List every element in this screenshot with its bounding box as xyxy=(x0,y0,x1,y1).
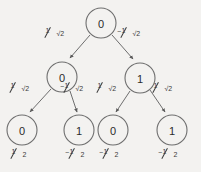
edge-label-right-rightright-denominator: √2 xyxy=(164,85,172,92)
edge-left-to-leftleft xyxy=(30,89,51,112)
edge-label-left-leftleft-denominator: √2 xyxy=(21,85,29,92)
node-leaf-3-label: 0 xyxy=(110,125,116,137)
edge-label-left-leftleft: 1 √2 xyxy=(10,82,29,92)
node-root[interactable]: 0 xyxy=(86,8,116,38)
fraction-bar-icon xyxy=(108,148,114,158)
edge-label-right-rightleft-denominator: √2 xyxy=(108,85,116,92)
leaf-value-2-denominator: 2 xyxy=(80,151,84,158)
leaf-value-3-denominator: 2 xyxy=(114,151,118,158)
leaf-value-4-denominator: 2 xyxy=(173,151,177,158)
node-leaf-1[interactable]: 0 xyxy=(7,115,37,145)
node-leaf-4-label: 1 xyxy=(169,125,175,137)
edge-label-root-right-sign: − xyxy=(117,27,121,35)
edge-label-right-rightright: 1 √2 xyxy=(153,82,172,92)
edge-label-root-right: − 1 √2 xyxy=(117,27,140,37)
leaf-value-1-denominator: 2 xyxy=(22,151,26,158)
edge-root-to-right xyxy=(112,35,133,59)
node-leaf-2[interactable]: 1 xyxy=(64,115,94,145)
node-leaf-2-label: 1 xyxy=(76,125,82,137)
node-leaf-3[interactable]: 0 xyxy=(98,115,128,145)
fraction-bar-icon xyxy=(167,148,173,158)
fraction-bar-icon xyxy=(102,82,108,92)
leaf-value-1: 1 2 xyxy=(11,148,26,158)
edge-root-to-left xyxy=(70,35,90,58)
fraction-bar-icon xyxy=(74,148,80,158)
edge-label-right-rightleft: 1 √2 xyxy=(97,82,116,92)
fraction-bar-icon xyxy=(158,82,164,92)
edge-label-left-leftright-denominator: √2 xyxy=(75,85,83,92)
leaf-value-4: − 1 2 xyxy=(158,148,177,158)
fraction-bar-icon xyxy=(50,27,56,37)
edge-right-to-rightright xyxy=(150,90,165,112)
edge-left-to-leftright xyxy=(70,91,77,112)
probability-tree-diagram: 0 0 1 0 1 0 1 1 xyxy=(0,0,201,172)
leaf-value-2-sign: − xyxy=(65,148,69,156)
leaf-value-3-sign: − xyxy=(99,148,103,156)
node-leaf-4[interactable]: 1 xyxy=(157,115,187,145)
edge-label-left-leftright-sign: − xyxy=(60,82,64,90)
leaf-value-2: − 1 2 xyxy=(65,148,84,158)
leaf-value-3: − 1 2 xyxy=(99,148,118,158)
fraction-bar-icon xyxy=(69,82,75,92)
node-level1-right-label: 1 xyxy=(137,73,143,85)
node-leaf-1-label: 0 xyxy=(19,125,25,137)
edge-label-root-left: 1 √2 xyxy=(45,27,64,37)
fraction-bar-icon xyxy=(15,82,21,92)
fraction-bar-icon xyxy=(16,148,22,158)
node-level1-right[interactable]: 1 xyxy=(125,63,155,93)
edge-label-left-leftright: − 1 √2 xyxy=(60,82,83,92)
edge-right-to-rightleft xyxy=(116,91,130,112)
edge-label-root-left-denominator: √2 xyxy=(56,30,64,37)
edge-label-root-right-denominator: √2 xyxy=(132,30,140,37)
node-root-label: 0 xyxy=(98,18,104,30)
fraction-bar-icon xyxy=(126,27,132,37)
leaf-value-4-sign: − xyxy=(158,148,162,156)
